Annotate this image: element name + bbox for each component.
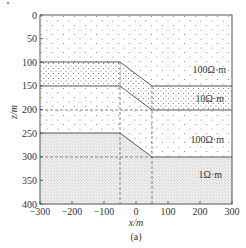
- x-axis-label: x/m: [128, 217, 143, 228]
- layer-2-label: 10Ω·m: [195, 93, 224, 104]
- corner-mark: [7, 2, 9, 4]
- layer-1-label: 100Ω·m: [192, 64, 226, 75]
- y-tick-labels: 0 50 100 150 200 250 300 350 400: [22, 10, 37, 210]
- svg-text:300: 300: [225, 206, 240, 217]
- layer-3-label: 100Ω·m: [190, 134, 224, 145]
- geoelectric-section-chart: 0 50 100 150 200 250 300 350 400 z/m −30…: [0, 0, 246, 248]
- svg-text:100: 100: [22, 57, 37, 68]
- svg-text:50: 50: [27, 33, 37, 44]
- svg-text:300: 300: [22, 151, 37, 162]
- figure-caption: (a): [130, 231, 141, 243]
- x-tick-labels: −300 −200 −100 0 100 200 300: [30, 206, 240, 217]
- svg-text:−100: −100: [94, 206, 115, 217]
- svg-text:350: 350: [22, 175, 37, 186]
- svg-text:150: 150: [22, 80, 37, 91]
- svg-text:200: 200: [22, 104, 37, 115]
- y-axis-label: z/m: [8, 105, 19, 120]
- svg-text:250: 250: [22, 128, 37, 139]
- svg-text:0: 0: [32, 10, 37, 21]
- svg-text:0: 0: [134, 206, 139, 217]
- svg-text:−300: −300: [30, 206, 51, 217]
- svg-text:200: 200: [193, 206, 208, 217]
- layer-4-label: 1Ω·m: [198, 169, 222, 180]
- svg-text:100: 100: [161, 206, 176, 217]
- svg-text:−200: −200: [62, 206, 83, 217]
